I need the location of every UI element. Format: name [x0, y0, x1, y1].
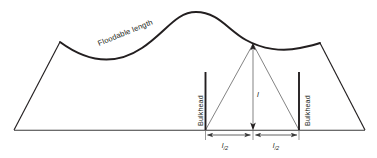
floodable-length-diagram: Floodable length l Bulkhead Bulkhead [0, 0, 377, 158]
hull-left-slope [14, 42, 60, 130]
triangle-left-leg [206, 44, 254, 130]
length-l-label: l [257, 90, 259, 99]
height-dimension-group: l [250, 43, 259, 131]
bulkhead-left-label: Bulkhead [196, 95, 205, 126]
triangle-right-leg [253, 44, 299, 130]
bulkhead-right-label: Bulkhead [303, 95, 312, 126]
floodable-length-curve [60, 12, 320, 59]
diagram-canvas: Floodable length l Bulkhead Bulkhead [0, 0, 377, 158]
dim-left-sub: /2 [222, 145, 229, 151]
dim-label-right-half: l/2 [273, 141, 280, 151]
triangle-group [206, 44, 300, 130]
dim-label-left-half: l/2 [222, 141, 229, 151]
bottom-dimensions-group: l/2 l/2 [206, 130, 300, 151]
floodable-length-label: Floodable length [96, 18, 154, 48]
hull-right-slope [320, 43, 365, 130]
dim-right-sub: /2 [273, 145, 280, 151]
hull-profile-group [14, 42, 365, 130]
